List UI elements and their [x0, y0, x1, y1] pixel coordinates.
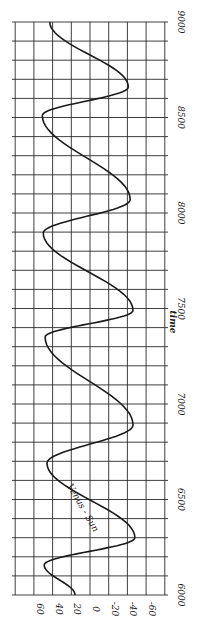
y-tick-label: 20: [72, 602, 82, 615]
series-annotation: Venus - Sun: [65, 482, 101, 534]
x-tick-label: 9000: [176, 11, 186, 34]
tick-labels: 60006500700075008000850090006040200-20-4…: [35, 11, 186, 617]
y-tick-label: -60: [147, 602, 157, 617]
y-tick-label: 40: [54, 602, 64, 615]
x-tick-label: 8000: [176, 202, 186, 225]
x-axis-title: time: [168, 311, 178, 334]
x-tick-label: 8500: [176, 106, 186, 129]
y-tick-label: -20: [110, 602, 120, 617]
y-tick-label: 60: [35, 603, 45, 615]
x-tick-label: 6000: [176, 584, 186, 607]
y-tick-label: -40: [128, 602, 138, 617]
x-tick-label: 7000: [176, 393, 186, 416]
x-tick-label: 6500: [176, 488, 186, 511]
chart: 60006500700075008000850090006040200-20-4…: [0, 0, 201, 631]
y-tick-label: 0: [91, 606, 101, 612]
